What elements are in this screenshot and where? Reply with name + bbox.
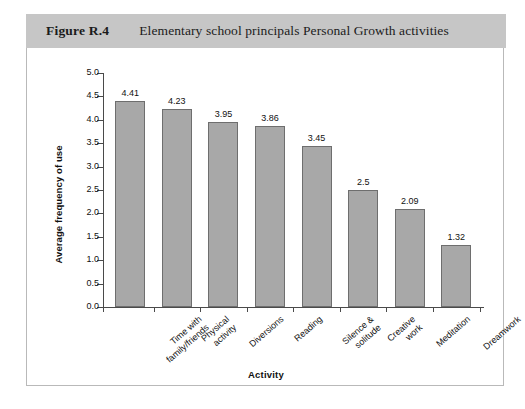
- bar-value-label: 1.32: [436, 232, 476, 242]
- figure-caption: Elementary school principals Personal Gr…: [139, 23, 449, 39]
- x-axis-tick: [103, 307, 104, 312]
- x-axis-category-label: Creative work: [385, 314, 424, 352]
- chart-plot-area: Average frequency of use Activity 5.04.5…: [27, 49, 505, 386]
- x-axis-title: Activity: [27, 369, 505, 380]
- y-axis-tick-label: 0.5: [86, 278, 99, 288]
- x-axis-tick: [154, 307, 155, 312]
- bar-value-label: 3.95: [203, 109, 243, 119]
- y-axis-tick-label: 2.0: [86, 207, 99, 217]
- y-axis-tick-label: 1.5: [86, 231, 99, 241]
- figure-header: Figure R.4 Elementary school principals …: [26, 14, 506, 48]
- bar: [395, 209, 425, 307]
- x-axis-category-label: Silence & solitude: [340, 314, 382, 355]
- x-axis-tick: [433, 307, 434, 312]
- bar: [302, 146, 332, 307]
- y-axis-tick-label: 3.5: [86, 137, 99, 147]
- x-axis-tick: [386, 307, 387, 312]
- figure-number: Figure R.4: [46, 23, 109, 39]
- x-axis-category-label: Dreamwork: [482, 314, 524, 352]
- bar-value-label: 2.5: [343, 177, 383, 187]
- y-axis-tick-label: 0.0: [86, 301, 99, 311]
- x-axis-tick: [293, 307, 294, 312]
- x-axis-category-label: Reading: [292, 314, 324, 344]
- x-axis-tick: [340, 307, 341, 312]
- figure-card: Figure R.4 Elementary school principals …: [26, 14, 504, 386]
- y-axis-title: Average frequency of use: [53, 125, 64, 285]
- bar-value-label: 2.09: [390, 196, 430, 206]
- figure-page: Figure R.4 Elementary school principals …: [0, 0, 525, 409]
- y-axis-line: [103, 73, 104, 308]
- x-axis-category-label: Diversions: [248, 314, 287, 349]
- y-axis-tick-label: 1.0: [86, 254, 99, 264]
- bar: [348, 190, 378, 307]
- x-axis-tick: [247, 307, 248, 312]
- y-axis-tick-label: 4.5: [86, 90, 99, 100]
- bar: [115, 101, 145, 307]
- bar-value-label: 3.86: [250, 113, 290, 123]
- bar: [441, 245, 471, 307]
- bar: [162, 109, 192, 307]
- bar-value-label: 4.41: [110, 88, 150, 98]
- y-axis-tick-label: 2.5: [86, 184, 99, 194]
- x-axis-tick: [480, 307, 481, 312]
- y-axis-tick-label: 5.0: [86, 67, 99, 77]
- bar: [208, 122, 238, 307]
- bar-value-label: 3.45: [297, 133, 337, 143]
- y-axis-tick-label: 3.0: [86, 161, 99, 171]
- x-axis-category-label: Physical activity: [199, 314, 238, 352]
- y-axis-tick-label: 4.0: [86, 114, 99, 124]
- x-axis-category-label: Meditation: [434, 314, 472, 349]
- x-axis-tick: [200, 307, 201, 312]
- bar: [255, 126, 285, 307]
- bar-value-label: 4.23: [157, 96, 197, 106]
